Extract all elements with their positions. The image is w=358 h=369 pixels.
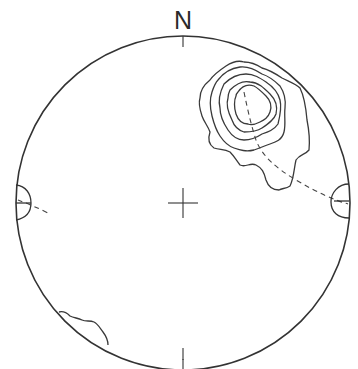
west-edge-marker (16, 185, 31, 220)
sw-edge-contour (59, 312, 108, 345)
dashed-trace-east (244, 92, 348, 204)
contour-level-2 (211, 67, 286, 151)
contour-level-3 (219, 74, 281, 140)
center-cross-icon (168, 188, 198, 218)
contour-level-5 (235, 85, 271, 125)
stereonet-plot (0, 0, 358, 369)
contour-level-1 (199, 61, 309, 190)
density-contours (199, 61, 309, 190)
dashed-trace-west (18, 200, 48, 213)
east-edge-marker (331, 184, 349, 218)
